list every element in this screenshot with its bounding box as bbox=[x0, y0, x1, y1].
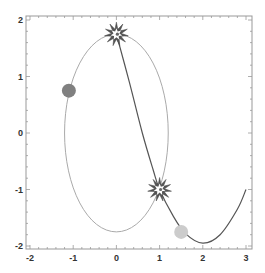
plot-frame bbox=[26, 16, 252, 249]
plot-border bbox=[26, 16, 252, 249]
y-tick-label: -1 bbox=[15, 185, 23, 195]
x-axis-tick-labels: -2-10123 bbox=[26, 253, 249, 263]
y-tick-label: -2 bbox=[15, 241, 23, 251]
x-tick-label: 2 bbox=[200, 253, 205, 263]
starburst-core bbox=[159, 188, 162, 191]
y-tick-label: 1 bbox=[18, 72, 23, 82]
y-axis-tick-labels: 210-1-2 bbox=[15, 15, 23, 251]
x-tick-label: 1 bbox=[157, 253, 162, 263]
x-tick-label: -1 bbox=[69, 253, 77, 263]
x-tick-label: 0 bbox=[114, 253, 119, 263]
chart: -2-10123 210-1-2 bbox=[0, 0, 265, 273]
x-tick-label: 3 bbox=[243, 253, 248, 263]
y-tick-label: 0 bbox=[18, 128, 23, 138]
light-ball-circle bbox=[174, 225, 188, 239]
y-tick-label: 2 bbox=[18, 15, 23, 25]
x-tick-label: -2 bbox=[26, 253, 34, 263]
starburst-core bbox=[116, 33, 119, 36]
dark-ball-circle bbox=[62, 84, 76, 98]
